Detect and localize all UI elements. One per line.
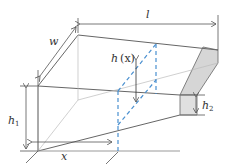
label-h2: h2 <box>202 99 214 113</box>
label-h1: h1 <box>8 114 20 128</box>
label-l: l <box>146 8 150 21</box>
hidden-edges <box>38 35 78 151</box>
label-w: w <box>49 35 59 48</box>
x-dimension <box>26 142 118 164</box>
ground-lines <box>20 86 205 151</box>
tapered-channel-diagram: l w h(x) h1 h2 x <box>0 0 232 164</box>
label-x: x <box>61 150 68 163</box>
label-hx: h(x) <box>111 52 135 65</box>
